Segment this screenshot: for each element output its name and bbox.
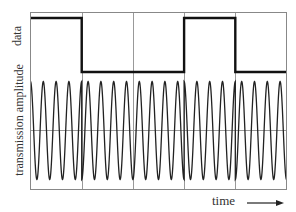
- data-axis-label: data: [10, 20, 24, 52]
- time-axis-label: time: [212, 193, 235, 208]
- time-arrow-icon: [247, 200, 284, 206]
- psk-diagram: [0, 0, 296, 212]
- grid-lines: [31, 13, 287, 190]
- data-square-wave: [31, 18, 287, 72]
- amplitude-axis-label: transmission amplitude: [12, 53, 26, 187]
- plot-frame: [31, 13, 287, 190]
